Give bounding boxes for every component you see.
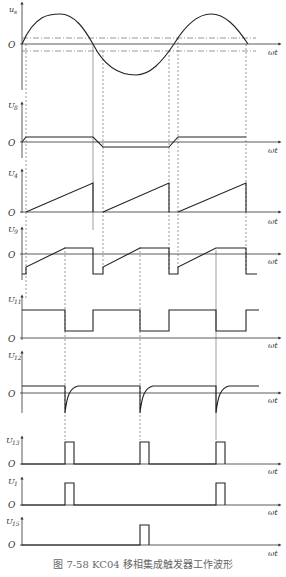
svg-text:12: 12 — [14, 354, 22, 361]
svg-text:13: 13 — [12, 439, 20, 446]
origin-label: O — [8, 40, 16, 50]
svg-text:ωt: ωt — [268, 146, 279, 155]
panel-u13: U 13 O ωt — [6, 436, 280, 476]
svg-text:ωt: ωt — [268, 508, 279, 517]
guide-lines — [26, 38, 246, 440]
svg-text:15: 15 — [12, 520, 20, 527]
svg-text:O: O — [8, 389, 16, 399]
svg-text:s: s — [14, 8, 17, 15]
svg-text:ωt: ωt — [268, 396, 279, 405]
panel-us: u s O ωt — [8, 3, 280, 90]
svg-text:ωt: ωt — [268, 217, 279, 226]
panel-u4: U 4 O ωt — [8, 169, 280, 226]
svg-text:8: 8 — [14, 104, 18, 111]
svg-text:1: 1 — [14, 480, 18, 487]
waveform-diagram: u s O ωt U 8 O ωt U 4 O ωt U 9 O ωt — [0, 0, 286, 577]
figure-caption: 图 7-58 KC04 移相集成触发器工作波形 — [0, 556, 286, 571]
svg-text:ωt: ωt — [268, 341, 279, 350]
svg-text:9: 9 — [14, 228, 18, 235]
svg-text:O: O — [8, 459, 16, 469]
panel-u1: U 1 O ωt — [8, 477, 280, 517]
svg-text:O: O — [8, 138, 16, 148]
svg-text:O: O — [8, 540, 16, 550]
svg-text:4: 4 — [13, 172, 18, 179]
svg-text:O: O — [8, 500, 16, 510]
panel-u9: U 9 O ωt — [8, 225, 280, 280]
svg-text:O: O — [8, 250, 16, 260]
panel-u11: U 11 O ωt — [8, 295, 280, 350]
svg-text:11: 11 — [14, 298, 22, 305]
guide-lines-solid — [93, 44, 216, 440]
x-axis-label: ωt — [268, 48, 279, 57]
svg-text:ωt: ωt — [268, 257, 279, 266]
svg-text:ωt: ωt — [268, 467, 279, 476]
panel-u8: U 8 O ωt — [8, 101, 280, 158]
panel-u15: U 15 O ωt — [6, 517, 280, 558]
svg-text:O: O — [8, 334, 16, 344]
panel-u12: U 12 O ωt — [8, 351, 280, 413]
svg-text:O: O — [8, 208, 16, 218]
